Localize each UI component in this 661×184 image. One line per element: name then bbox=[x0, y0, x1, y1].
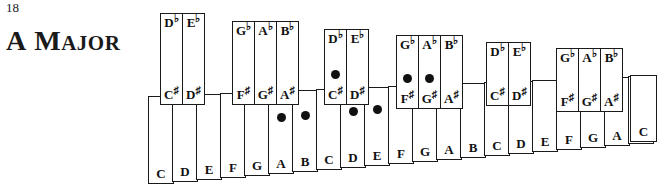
piano-keyboard-diagram: CDEFGABCDEFGABCDEFGABCD♭C♯E♭D♯G♭F♯A♭G♯B♭… bbox=[0, 0, 661, 184]
black-key-flat-label: D♭ bbox=[487, 45, 508, 59]
black-key-flat-label: E♭ bbox=[347, 32, 368, 46]
white-key-label: A bbox=[437, 143, 461, 156]
scale-note-dot bbox=[277, 113, 286, 122]
black-key-sharp-label: G♯ bbox=[579, 95, 600, 109]
white-key-label: C bbox=[317, 153, 341, 166]
black-key[interactable]: B♭A♯ bbox=[276, 21, 299, 105]
scale-note-dot bbox=[331, 70, 340, 79]
scale-note-dot bbox=[349, 107, 358, 116]
black-key[interactable]: G♭F♯ bbox=[556, 48, 579, 112]
black-key[interactable]: D♭C♯ bbox=[324, 29, 347, 105]
white-key-label: D bbox=[341, 151, 365, 164]
scale-note-dot bbox=[425, 74, 434, 83]
black-key[interactable]: E♭D♯ bbox=[508, 42, 531, 106]
black-key-flat-label: A♭ bbox=[579, 51, 600, 65]
white-key-label: E bbox=[197, 163, 221, 176]
white-key[interactable]: E bbox=[532, 80, 558, 152]
black-key-sharp-label: G♯ bbox=[419, 92, 440, 106]
white-key-label: F bbox=[557, 133, 581, 146]
black-key[interactable]: D♭C♯ bbox=[486, 42, 509, 106]
white-key-label: E bbox=[365, 149, 389, 162]
black-key[interactable]: E♭D♯ bbox=[182, 13, 205, 105]
sheet-music-page: 18 A MAJOR CDEFGABCDEFGABCDEFGABCD♭C♯E♭D… bbox=[0, 0, 661, 184]
black-key-sharp-label: D♯ bbox=[509, 89, 530, 103]
white-key[interactable]: F bbox=[220, 93, 246, 178]
white-key-label: G bbox=[413, 145, 437, 158]
black-key-sharp-label: G♯ bbox=[255, 88, 276, 102]
black-key-sharp-label: D♯ bbox=[347, 88, 368, 102]
black-key-sharp-label: C♯ bbox=[161, 88, 182, 102]
white-key-label: G bbox=[581, 131, 605, 144]
white-key[interactable]: D bbox=[172, 95, 198, 182]
scale-note-dot bbox=[373, 105, 382, 114]
white-key-label: A bbox=[269, 157, 293, 170]
white-key-label: D bbox=[509, 137, 533, 150]
white-key-label: B bbox=[461, 141, 485, 154]
white-key[interactable]: C bbox=[630, 75, 657, 142]
black-key-sharp-label: A♯ bbox=[441, 92, 462, 106]
white-key-label: F bbox=[221, 161, 245, 174]
black-key[interactable]: B♭A♯ bbox=[440, 35, 463, 109]
black-key-sharp-label: F♯ bbox=[397, 92, 418, 106]
black-key[interactable]: D♭C♯ bbox=[160, 13, 183, 105]
white-key-label: D bbox=[173, 165, 197, 178]
black-key[interactable]: G♭F♯ bbox=[232, 21, 255, 105]
black-key-flat-label: A♭ bbox=[419, 38, 440, 52]
white-key-label: B bbox=[293, 155, 317, 168]
black-key-sharp-label: F♯ bbox=[233, 88, 254, 102]
black-key-flat-label: A♭ bbox=[255, 24, 276, 38]
black-key-flat-label: B♭ bbox=[441, 38, 462, 52]
black-key-flat-label: D♭ bbox=[325, 32, 346, 46]
black-key-flat-label: E♭ bbox=[509, 45, 530, 59]
white-key[interactable]: B bbox=[460, 83, 486, 158]
black-key-sharp-label: D♯ bbox=[183, 88, 204, 102]
white-key[interactable]: E bbox=[196, 94, 222, 180]
black-key-flat-label: D♭ bbox=[161, 16, 182, 30]
scale-note-dot bbox=[403, 74, 412, 83]
black-key-flat-label: B♭ bbox=[277, 24, 298, 38]
black-key-sharp-label: A♯ bbox=[601, 95, 622, 109]
black-key[interactable]: A♭G♯ bbox=[418, 35, 441, 109]
white-key-label: E bbox=[533, 135, 557, 148]
black-key-flat-label: G♭ bbox=[397, 38, 418, 52]
black-key-flat-label: E♭ bbox=[183, 16, 204, 30]
black-key[interactable]: G♭F♯ bbox=[396, 35, 419, 109]
black-key[interactable]: B♭A♯ bbox=[600, 48, 623, 112]
black-key[interactable]: A♭G♯ bbox=[254, 21, 277, 105]
black-key-sharp-label: C♯ bbox=[487, 89, 508, 103]
black-key-sharp-label: A♯ bbox=[277, 88, 298, 102]
black-key-sharp-label: C♯ bbox=[325, 88, 346, 102]
black-key-flat-label: G♭ bbox=[233, 24, 254, 38]
black-key[interactable]: E♭D♯ bbox=[346, 29, 369, 105]
scale-note-dot bbox=[301, 111, 310, 120]
white-key-label: F bbox=[389, 147, 413, 160]
white-key-label: C bbox=[149, 167, 173, 180]
white-key-label: C bbox=[631, 125, 656, 138]
white-key-label: G bbox=[245, 159, 269, 172]
black-key-sharp-label: F♯ bbox=[557, 95, 578, 109]
black-key[interactable]: A♭G♯ bbox=[578, 48, 601, 112]
white-key-label: A bbox=[605, 129, 629, 142]
black-key-flat-label: B♭ bbox=[601, 51, 622, 65]
white-key-label: C bbox=[485, 139, 509, 152]
white-key[interactable]: C bbox=[148, 96, 174, 184]
black-key-flat-label: G♭ bbox=[557, 51, 578, 65]
